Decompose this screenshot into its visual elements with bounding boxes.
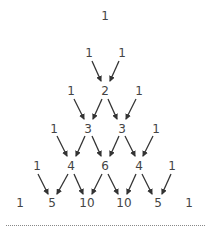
cell-r2-c0: 1: [67, 84, 75, 98]
cell-r4-c4: 1: [168, 159, 176, 173]
cell-r1-c0: 1: [85, 46, 93, 60]
cell-r4-c0: 1: [33, 159, 41, 173]
cell-r5-c4: 5: [154, 196, 162, 210]
cell-r5-c2: 10: [79, 196, 94, 210]
cell-r3-c3: 1: [152, 122, 160, 136]
cell-r3-c2: 3: [118, 122, 126, 136]
cell-r4-c2: 6: [101, 159, 109, 173]
cell-r2-c2: 1: [135, 84, 143, 98]
cell-r5-c3: 10: [116, 196, 131, 210]
cell-r4-c1: 4: [67, 159, 75, 173]
cell-r5-c1: 5: [48, 196, 56, 210]
dotted-divider: [6, 225, 205, 226]
arrows: [38, 61, 171, 194]
cell-r5-c5: 1: [185, 196, 193, 210]
cell-r3-c1: 3: [84, 122, 92, 136]
cell-r2-c1: 2: [101, 84, 109, 98]
cell-r3-c0: 1: [50, 122, 58, 136]
cell-r0-c0: 1: [101, 9, 109, 23]
arrows-layer: [0, 0, 205, 235]
cell-r5-c0: 1: [16, 196, 24, 210]
cell-r4-c3: 4: [135, 159, 143, 173]
cell-r1-c1: 1: [118, 46, 126, 60]
